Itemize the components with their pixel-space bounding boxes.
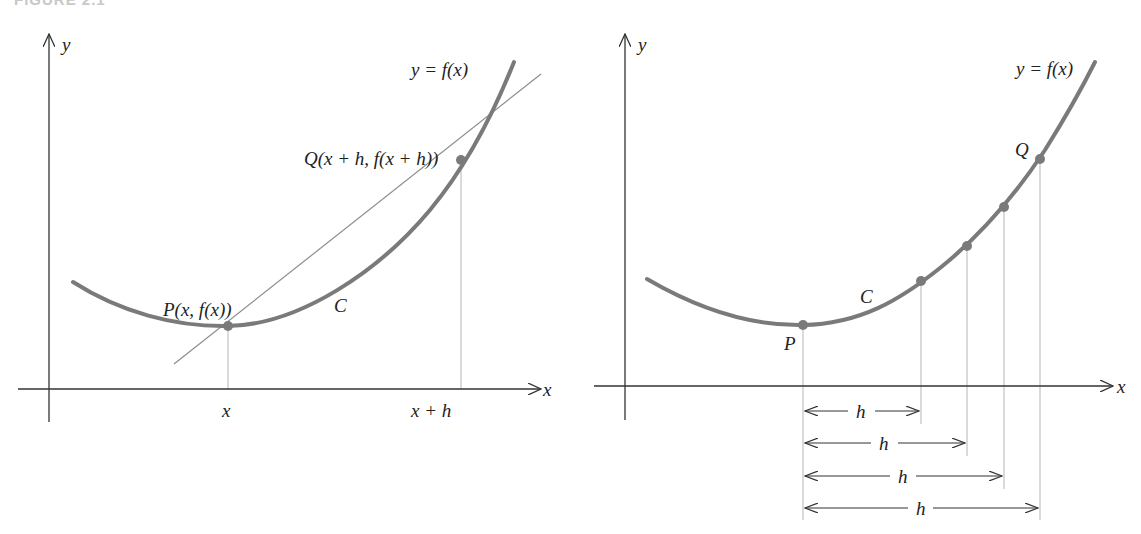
point-q [456, 155, 466, 165]
point-p-label: P(x, f(x)) [162, 299, 232, 321]
left-panel: y x y = f(x) C P(x, f(x)) Q(x + h, f(x +… [18, 34, 552, 422]
point-3 [999, 202, 1009, 212]
h-label-1: h [856, 401, 866, 422]
h-arrow-2: h [805, 433, 965, 454]
point-1 [916, 276, 926, 286]
h-arrow-3: h [805, 466, 1002, 487]
point-2 [962, 241, 972, 251]
secant-line [174, 74, 541, 364]
x-axis-label: x [1116, 376, 1126, 397]
point-p [223, 321, 233, 331]
curve-name-label: C [860, 286, 873, 307]
curve-name-label: C [334, 295, 347, 316]
h-arrow-4: h [805, 498, 1038, 519]
curve-equation-label: y = f(x) [409, 59, 468, 81]
point-q [1035, 154, 1045, 164]
y-axis-label: y [636, 34, 647, 55]
h-label-4: h [916, 498, 926, 519]
h-label-2: h [879, 433, 889, 454]
curve-c [73, 62, 514, 326]
tick-x-label: x [221, 400, 231, 421]
h-label-3: h [898, 466, 908, 487]
point-q-label: Q(x + h, f(x + h)) [304, 148, 438, 170]
x-axis-label: x [542, 379, 552, 400]
point-p [798, 320, 808, 330]
tick-xh-label: x + h [410, 400, 451, 421]
point-q-label: Q [1015, 139, 1029, 160]
y-axis-label: y [60, 34, 71, 55]
right-panel: h h h h y x y = f(x) C P Q [594, 34, 1126, 520]
h-arrow-1: h [805, 401, 919, 422]
point-p-label: P [783, 333, 796, 354]
curve-equation-label: y = f(x) [1014, 58, 1073, 80]
